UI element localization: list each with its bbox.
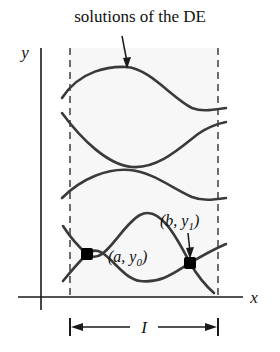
point-label-a-close: ) [141,248,147,266]
interval-measure: I [70,318,218,337]
point-label-b-var: b, y [165,212,189,230]
point-label-a-var: a, y [113,248,137,266]
differential-equation-solutions-figure: y x solutions of the DE (a, y0) (b, y1) [0,0,280,352]
y-axis-label: y [19,43,29,62]
figure-title: solutions of the DE [74,7,206,26]
x-axis-label: x [249,288,258,307]
point-label-b-close: ) [193,212,199,230]
interval-label: I [140,318,148,337]
interval-arrowhead-left [71,323,83,331]
intersection-point-a [81,248,93,260]
interval-arrowhead-right [205,323,217,331]
